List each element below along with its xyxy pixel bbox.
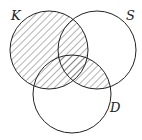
set-s-label: S (126, 8, 135, 23)
venn-diagram: K S D (0, 0, 142, 140)
set-k-label: K (10, 8, 22, 23)
set-d-label: D (109, 100, 121, 115)
